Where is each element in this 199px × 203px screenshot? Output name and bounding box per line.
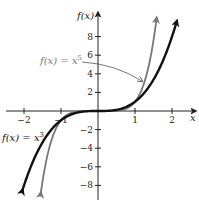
series-label-x3: f(x) = x3 bbox=[1, 131, 44, 143]
series-label-x5: f(x) = x5 bbox=[39, 54, 82, 66]
y-tick-label: −8 bbox=[80, 180, 94, 190]
x-tick-label: −2 bbox=[17, 115, 30, 125]
x-tick-label: 2 bbox=[169, 115, 175, 125]
y-axis-title: f(x) bbox=[76, 10, 94, 21]
chart: −2−112 −8−6−4−22468 x f(x) f(x) = x3f(x)… bbox=[0, 0, 199, 203]
axes bbox=[6, 14, 194, 200]
y-tick-label: −2 bbox=[80, 125, 93, 135]
series-labels: f(x) = x3f(x) = x5 bbox=[1, 54, 142, 143]
x-axis-title: x bbox=[190, 112, 196, 123]
y-tick-label: 8 bbox=[87, 32, 93, 42]
y-tick-label: 2 bbox=[87, 87, 93, 97]
series-group bbox=[22, 19, 176, 194]
y-tick-label: 6 bbox=[87, 50, 93, 60]
y-tick-label: −6 bbox=[80, 162, 94, 172]
y-tick-label: −4 bbox=[80, 143, 94, 153]
y-tick-label: 4 bbox=[87, 69, 93, 79]
x-tick-label: 1 bbox=[132, 115, 138, 125]
series-line-x5 bbox=[41, 19, 157, 194]
